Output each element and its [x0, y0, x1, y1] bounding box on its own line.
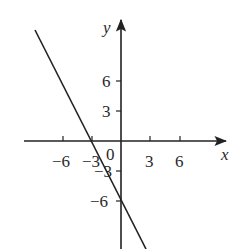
y-tick-label: 3 — [102, 102, 111, 121]
y-axis-label: y — [101, 18, 111, 37]
x-tick-label: 6 — [175, 152, 184, 171]
x-tick-label: 3 — [145, 152, 154, 171]
graph-line — [35, 30, 146, 249]
x-tick-label: −6 — [52, 152, 70, 171]
x-axis-label: x — [220, 145, 229, 164]
coordinate-plane: −6 −3 3 6 0 6 3 −3 −6 x y — [0, 0, 247, 249]
y-tick-label: −6 — [90, 192, 108, 211]
y-tick-label: 6 — [102, 72, 111, 91]
